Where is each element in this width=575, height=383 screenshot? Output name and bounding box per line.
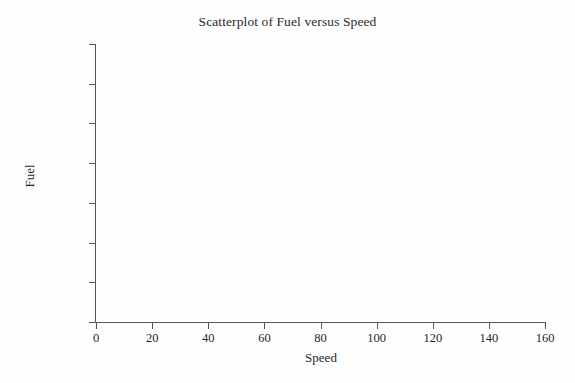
x-tick-label: 60 xyxy=(239,332,289,345)
x-tick-mark xyxy=(152,323,153,329)
x-tick-label: 100 xyxy=(352,332,402,345)
x-tick-label: 140 xyxy=(464,332,514,345)
y-tick-mark xyxy=(89,44,95,45)
y-axis-title: Fuel xyxy=(22,156,38,196)
y-axis-line xyxy=(95,44,96,323)
plot-area xyxy=(96,44,545,322)
x-tick-mark xyxy=(264,323,265,329)
x-tick-label: 80 xyxy=(296,332,346,345)
x-axis-title: Speed xyxy=(96,350,546,366)
y-tick-mark xyxy=(89,203,95,204)
y-tick-mark xyxy=(89,163,95,164)
y-tick-mark xyxy=(89,282,95,283)
y-tick-mark xyxy=(89,243,95,244)
x-tick-label: 120 xyxy=(408,332,458,345)
x-tick-label: 40 xyxy=(183,332,233,345)
x-tick-mark xyxy=(433,323,434,329)
x-tick-mark xyxy=(96,323,97,329)
scatterplot-figure: Scatterplot of Fuel versus Speed 5.07.51… xyxy=(0,0,575,383)
y-tick-mark xyxy=(89,322,95,323)
x-tick-label: 160 xyxy=(520,332,570,345)
x-tick-label: 20 xyxy=(127,332,177,345)
x-tick-mark xyxy=(489,323,490,329)
chart-title: Scatterplot of Fuel versus Speed xyxy=(0,14,575,30)
x-tick-mark xyxy=(321,323,322,329)
x-tick-mark xyxy=(377,323,378,329)
y-tick-mark xyxy=(89,123,95,124)
x-tick-label: 0 xyxy=(71,332,121,345)
x-tick-mark xyxy=(208,323,209,329)
y-tick-mark xyxy=(89,84,95,85)
x-tick-mark xyxy=(545,323,546,329)
